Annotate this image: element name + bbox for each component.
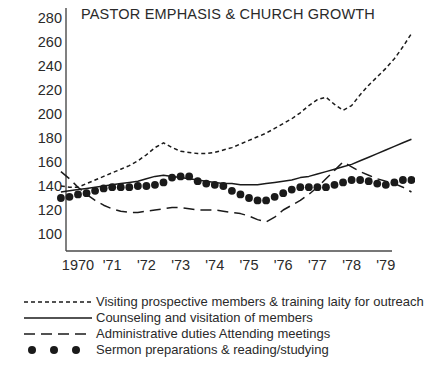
- series-administrative: [61, 162, 412, 222]
- legend-label: Sermon preparations & reading/studying: [96, 343, 329, 357]
- data-point: [322, 183, 330, 191]
- data-point: [125, 183, 133, 191]
- data-point: [57, 194, 65, 202]
- data-point: [83, 189, 91, 197]
- data-point: [151, 181, 159, 189]
- chart-legend: Visiting prospective members & training …: [22, 294, 412, 358]
- legend-dot: [28, 346, 36, 354]
- data-point: [288, 186, 296, 194]
- data-point: [305, 183, 313, 191]
- data-point: [331, 181, 339, 189]
- data-point: [279, 189, 287, 197]
- legend-dot: [50, 346, 58, 354]
- data-point: [117, 183, 125, 191]
- legend-label: Visiting prospective members & training …: [96, 295, 424, 309]
- data-point: [228, 187, 236, 195]
- data-point: [177, 173, 185, 181]
- legend-dot: [72, 346, 80, 354]
- data-point: [237, 191, 245, 199]
- data-point: [134, 182, 142, 190]
- data-point: [66, 193, 74, 201]
- data-point: [74, 191, 82, 199]
- legend-item: Administrative duties Attending meetings: [22, 326, 412, 342]
- legend-label: Counseling and visitation of members: [96, 311, 313, 325]
- legend-swatch-dashed: [22, 327, 96, 341]
- data-point: [373, 180, 381, 188]
- data-point: [296, 183, 304, 191]
- data-point: [271, 193, 279, 201]
- data-point: [382, 181, 390, 189]
- data-point: [160, 179, 168, 187]
- data-point: [356, 176, 364, 184]
- data-point: [168, 174, 176, 182]
- data-point: [219, 182, 227, 190]
- data-point: [108, 183, 116, 191]
- legend-swatch-dots: [22, 343, 96, 357]
- data-point: [408, 176, 415, 184]
- data-point: [339, 179, 347, 187]
- data-point: [211, 181, 219, 189]
- data-point: [143, 182, 151, 190]
- data-point: [185, 173, 193, 181]
- data-point: [365, 177, 373, 185]
- legend-item: Visiting prospective members & training …: [22, 294, 412, 310]
- data-point: [348, 176, 356, 184]
- data-point: [254, 197, 262, 205]
- data-point: [194, 177, 202, 185]
- data-point: [262, 197, 270, 205]
- data-point: [390, 179, 398, 187]
- legend-label: Administrative duties Attending meetings: [96, 327, 330, 341]
- data-point: [399, 176, 407, 184]
- series-sermon: [57, 173, 415, 205]
- data-point: [91, 187, 99, 195]
- axis-lines: [66, 8, 392, 251]
- legend-item: Counseling and visitation of members: [22, 310, 412, 326]
- legend-swatch-dotted: [22, 295, 96, 309]
- data-point: [314, 183, 322, 191]
- data-point: [100, 185, 108, 193]
- legend-swatch-solid: [22, 311, 96, 325]
- legend-item: Sermon preparations & reading/studying: [22, 342, 412, 358]
- data-point: [245, 194, 253, 202]
- data-series-group: [57, 34, 415, 222]
- series-visiting: [61, 34, 412, 188]
- data-point: [202, 180, 210, 188]
